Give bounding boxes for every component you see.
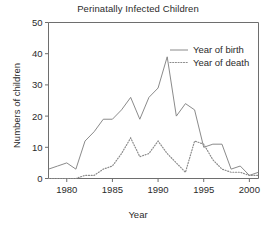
x-tick-label: 1995: [193, 184, 214, 195]
x-axis-ticks: 19801985199019952000: [56, 179, 260, 195]
x-tick-label: 1980: [56, 184, 77, 195]
data-series-layer: [49, 57, 259, 179]
legend-label-death: Year of death: [193, 57, 249, 68]
x-tick-label: 1990: [147, 184, 168, 195]
y-tick-label: 50: [32, 17, 43, 28]
legend-label-birth: Year of birth: [193, 44, 244, 55]
y-tick-label: 10: [32, 142, 43, 153]
x-tick-label: 1985: [102, 184, 123, 195]
chart-legend: Year of birthYear of death: [170, 44, 249, 68]
y-tick-label: 30: [32, 79, 43, 90]
x-tick-label: 2000: [239, 184, 260, 195]
y-tick-label: 40: [32, 48, 43, 59]
plot-area: 01020304050 19801985199019952000 Year of…: [0, 0, 276, 231]
y-tick-label: 0: [37, 173, 42, 184]
series-line-birth: [49, 57, 259, 176]
chart-figure: Perinatally Infected Children Numbers of…: [0, 0, 276, 231]
y-axis-ticks: 01020304050: [32, 17, 49, 184]
y-tick-label: 20: [32, 111, 43, 122]
